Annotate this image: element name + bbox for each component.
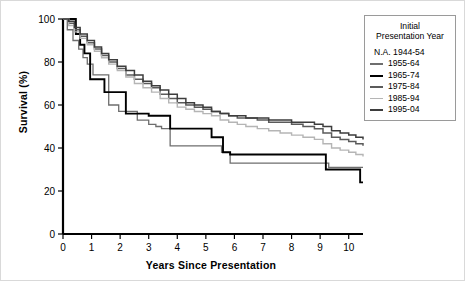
y-tick-label: 80: [44, 57, 56, 68]
legend-item-label: 1985-94: [388, 93, 420, 103]
x-tick-label: 3: [146, 242, 152, 253]
survival-curve-1955-64: [63, 19, 363, 167]
x-tick-label: 9: [317, 242, 323, 253]
x-tick-label: 5: [203, 242, 209, 253]
legend-line-swatch: [369, 81, 384, 92]
x-tick-label: 8: [289, 242, 295, 253]
survival-curves-svg: 020406080100012345678910: [1, 1, 371, 281]
legend-line-swatch: [369, 58, 384, 69]
x-tick-label: 6: [232, 242, 238, 253]
curve-layer: [63, 19, 363, 182]
x-tick-label: 4: [175, 242, 181, 253]
y-tick-label: 0: [49, 229, 55, 240]
y-tick-label: 100: [38, 14, 55, 25]
chart-legend: Initial Presentation Year N.A. 1944-5419…: [364, 15, 456, 121]
legend-item-label: N.A. 1944-54: [374, 47, 425, 57]
legend-item-label: 1995-04: [388, 104, 420, 114]
x-axis-title: Years Since Presentation: [61, 259, 361, 271]
survival-curve-1965-74: [63, 19, 363, 182]
chart-figure: 020406080100012345678910 Survival (%) Ye…: [0, 0, 465, 281]
legend-item-n-a-1944-54: N.A. 1944-54: [369, 46, 451, 58]
legend-line-swatch: [369, 69, 384, 80]
legend-title-line2: Presentation Year: [369, 31, 451, 41]
legend-line-swatch: [369, 104, 384, 115]
legend-entries: N.A. 1944-541955-641965-741975-841985-94…: [369, 46, 451, 115]
x-tick-label: 10: [343, 242, 355, 253]
legend-item-1995-04: 1995-04: [369, 103, 451, 115]
x-tick-label: 0: [60, 242, 66, 253]
x-tick-label: 1: [89, 242, 95, 253]
y-tick-label: 20: [44, 186, 56, 197]
legend-line-swatch: [369, 92, 384, 103]
y-tick-label: 60: [44, 100, 56, 111]
x-tick-label: 7: [260, 242, 266, 253]
legend-item-1975-84: 1975-84: [369, 80, 451, 92]
survival-curve-1995-04: [63, 19, 363, 139]
legend-item-label: 1955-64: [388, 58, 420, 68]
y-tick-label: 40: [44, 143, 56, 154]
legend-item-label: 1975-84: [388, 81, 420, 91]
plot-area: 020406080100012345678910 Survival (%) Ye…: [1, 1, 371, 281]
survival-curve-1975-84: [63, 19, 363, 146]
axis-layer: 020406080100012345678910: [38, 14, 363, 253]
legend-item-1965-74: 1965-74: [369, 69, 451, 81]
legend-item-1985-94: 1985-94: [369, 92, 451, 104]
legend-title: Initial Presentation Year: [369, 21, 451, 42]
y-axis-title: Survival (%): [17, 42, 29, 162]
legend-item-1955-64: 1955-64: [369, 57, 451, 69]
x-tick-label: 2: [117, 242, 123, 253]
legend-title-line1: Initial: [369, 21, 451, 31]
legend-item-label: 1965-74: [388, 70, 420, 80]
survival-curve-1985-94: [63, 19, 363, 157]
